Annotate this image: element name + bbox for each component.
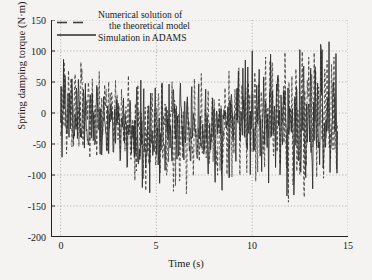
y-tick-label: -50 xyxy=(6,139,46,150)
y-tick-label: 0 xyxy=(6,108,46,119)
legend-label-theoretical-line1: Numerical solution of xyxy=(98,9,190,20)
figure-container: Spring damping torque (N·m) 150 100 50 0… xyxy=(0,0,372,280)
x-tick-label: 10 xyxy=(237,240,267,251)
y-tick-label: -200 xyxy=(6,232,46,243)
y-tick-label: 50 xyxy=(6,77,46,88)
legend-sample-lines xyxy=(57,23,96,36)
x-tick-label: 0 xyxy=(46,240,76,251)
x-tick-label: 5 xyxy=(141,240,171,251)
y-tick-label: 100 xyxy=(6,46,46,57)
x-tick-label: 15 xyxy=(333,240,363,251)
chart-svg xyxy=(51,20,348,237)
y-tick-label: 150 xyxy=(6,15,46,26)
y-tick-label: -100 xyxy=(6,170,46,181)
plot-area xyxy=(51,20,348,237)
y-tick-label: -150 xyxy=(6,201,46,212)
x-axis-title: Time (s) xyxy=(0,258,372,269)
